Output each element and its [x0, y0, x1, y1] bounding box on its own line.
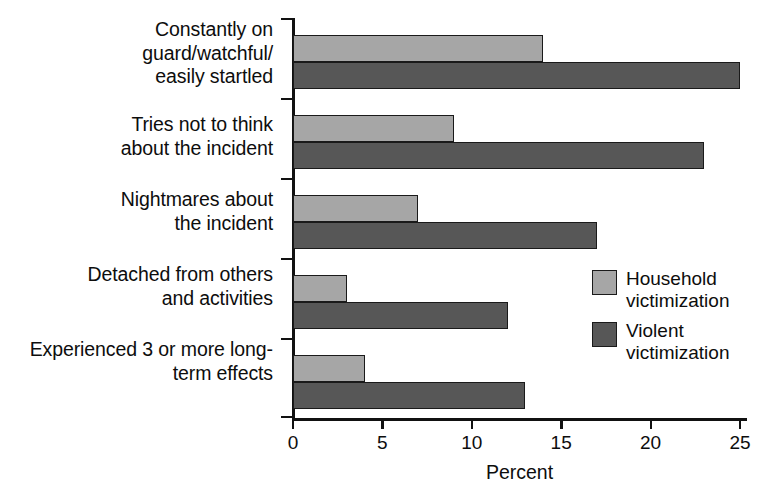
bar [293, 302, 508, 329]
x-axis-tick [471, 418, 473, 429]
legend-swatch-household [592, 270, 617, 295]
y-axis-tick [281, 178, 292, 180]
legend-label-household: Household victimization [626, 268, 729, 312]
x-axis-tick-label: 20 [640, 432, 661, 454]
y-axis-tick [281, 18, 292, 20]
horizontal-bar-chart: Constantly on guard/watchful/ easily sta… [0, 0, 771, 489]
chart-legend: Household victimization Violent victimiz… [592, 268, 767, 372]
x-axis-tick-label: 25 [729, 432, 750, 454]
x-axis-tick [381, 418, 383, 429]
bar [293, 142, 704, 169]
x-axis-tick [560, 418, 562, 429]
legend-item-violent: Violent victimization [592, 320, 767, 364]
x-axis-tick [650, 418, 652, 429]
x-axis-tick-label: 15 [551, 432, 572, 454]
x-axis-tick-label: 10 [461, 432, 482, 454]
category-label-0: Constantly on guard/watchful/ easily sta… [142, 18, 273, 89]
bar [293, 35, 543, 62]
bar [293, 382, 525, 409]
bar [293, 195, 418, 222]
x-axis-title: Percent [292, 461, 747, 484]
category-axis-labels: Constantly on guard/watchful/ easily sta… [0, 0, 283, 489]
y-axis-tick [281, 258, 292, 260]
bar [293, 355, 365, 382]
bar [293, 222, 597, 249]
x-axis-tick [292, 418, 294, 429]
legend-item-household: Household victimization [592, 268, 767, 312]
bar [293, 275, 347, 302]
y-axis-tick [281, 338, 292, 340]
category-label-2: Nightmares about the incident [121, 188, 273, 235]
bar [293, 62, 740, 89]
x-axis-tick-label: 5 [377, 432, 388, 454]
category-label-4: Experienced 3 or more long- term effects [30, 338, 273, 385]
y-axis-tick [281, 98, 292, 100]
legend-label-violent: Violent victimization [626, 320, 729, 364]
y-axis-tick [281, 416, 292, 418]
category-label-3: Detached from others and activities [87, 263, 273, 310]
legend-swatch-violent [592, 322, 617, 347]
x-axis-line [292, 418, 747, 421]
bar [293, 115, 454, 142]
x-axis-tick-label: 0 [288, 432, 299, 454]
x-axis-tick [739, 418, 741, 429]
category-label-1: Tries not to think about the incident [121, 113, 273, 160]
